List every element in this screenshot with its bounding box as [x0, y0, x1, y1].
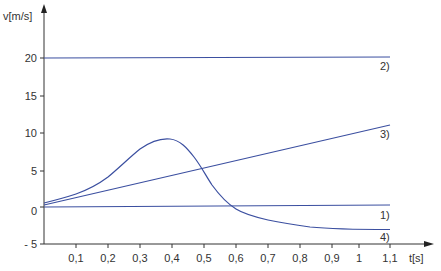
x-tick-label: 1,1	[382, 252, 397, 264]
velocity-time-chart: v[m/s] t[s] 20 15 10 5 0 - 5 0,1 0,2 0,3…	[0, 0, 441, 271]
y-ticks: 20 15 10 5 0 - 5	[24, 52, 44, 250]
series-1-line	[44, 205, 390, 207]
x-tick-label: 0,4	[164, 252, 179, 264]
y-tick-label: 20	[25, 52, 37, 64]
x-tick-label: 0,8	[292, 252, 307, 264]
series-4-curve	[44, 139, 390, 230]
x-tick-label: 0,2	[100, 252, 115, 264]
y-tick-label: - 5	[24, 238, 37, 250]
x-axis-title: t[s]	[409, 252, 424, 264]
x-tick-label: 0,1	[68, 252, 83, 264]
x-tick-label: 0,7	[260, 252, 275, 264]
y-tick-label: 5	[31, 165, 37, 177]
series-2-label: 2)	[380, 60, 390, 72]
y-tick-label: 15	[25, 90, 37, 102]
series-2-line	[44, 57, 390, 58]
x-tick-label: 0,6	[228, 252, 243, 264]
y-axis-title: v[m/s]	[3, 10, 32, 22]
y-tick-label: 10	[25, 127, 37, 139]
series-3-line	[44, 125, 390, 205]
series-3-label: 3)	[380, 128, 390, 140]
x-tick-label: 0,9	[324, 252, 339, 264]
x-tick-label: 1	[356, 252, 362, 264]
x-axis-arrow-icon	[424, 241, 434, 247]
series-4-label: 4)	[380, 231, 390, 243]
x-tick-label: 0,5	[196, 252, 211, 264]
x-ticks: 0,1 0,2 0,3 0,4 0,5 0,6 0,7 0,8 0,9 1 1,…	[68, 244, 397, 264]
x-tick-label: 0,3	[132, 252, 147, 264]
y-axis-arrow-icon	[41, 4, 47, 13]
series-1-label: 1)	[380, 209, 390, 221]
y-tick-label: 0	[31, 205, 37, 217]
